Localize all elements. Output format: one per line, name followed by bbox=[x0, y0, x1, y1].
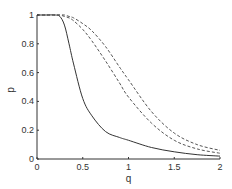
x-tick-label: 0 bbox=[34, 162, 39, 172]
y-tick-label: 0.2 bbox=[21, 125, 34, 135]
plot-lines bbox=[37, 15, 220, 156]
y-tick-label: 1 bbox=[29, 10, 34, 20]
series-line-solid bbox=[37, 15, 220, 156]
series-line-dashed-2 bbox=[37, 15, 220, 150]
y-tick-label: 0.4 bbox=[21, 96, 34, 106]
y-tick-label: 0 bbox=[29, 154, 34, 164]
y-ticks: 00.20.40.60.81 bbox=[21, 10, 39, 164]
line-chart: 00.511.52 00.20.40.60.81 q p bbox=[0, 0, 232, 189]
y-tick-label: 0.8 bbox=[21, 39, 34, 49]
series-line-dashed-1 bbox=[37, 15, 220, 153]
x-axis-label: q bbox=[126, 173, 132, 184]
y-axis-label: p bbox=[5, 87, 16, 93]
axes bbox=[37, 15, 220, 159]
x-tick-label: 2 bbox=[217, 162, 222, 172]
x-tick-label: 1.5 bbox=[168, 162, 181, 172]
x-tick-label: 0.5 bbox=[76, 162, 89, 172]
y-tick-label: 0.6 bbox=[21, 68, 34, 78]
x-tick-label: 1 bbox=[126, 162, 131, 172]
